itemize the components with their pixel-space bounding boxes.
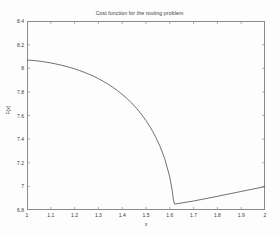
y-axis-tick-labels: 6.877.27.47.67.888.28.4 <box>0 0 24 237</box>
x-tick-label: 1.2 <box>71 212 78 218</box>
x-tick-label: 1 <box>26 212 29 218</box>
series-line-fx <box>27 60 265 204</box>
y-tick-label: 7.2 <box>17 160 24 166</box>
y-tick-label: 7.4 <box>17 136 24 142</box>
figure-canvas: Cost function for the routing problem 6.… <box>0 0 279 237</box>
chart-title: Cost function for the routing problem <box>0 10 279 16</box>
x-tick-label: 1.6 <box>166 212 173 218</box>
y-tick-label: 7 <box>21 183 24 189</box>
tick-marks <box>27 21 265 210</box>
plot-area <box>27 21 265 210</box>
y-tick-label: 8.4 <box>17 18 24 24</box>
x-tick-label: 1.8 <box>214 212 221 218</box>
x-tick-label: 1.9 <box>238 212 245 218</box>
x-tick-label: 2 <box>264 212 267 218</box>
x-tick-label: 1.5 <box>143 212 150 218</box>
x-axis-label: x <box>27 221 265 227</box>
y-tick-label: 7.8 <box>17 89 24 95</box>
x-tick-label: 1.3 <box>95 212 102 218</box>
y-axis-label: F(x) <box>5 96 11 124</box>
y-tick-label: 8 <box>21 65 24 71</box>
x-tick-label: 1.1 <box>47 212 54 218</box>
y-tick-label: 8.2 <box>17 42 24 48</box>
y-tick-label: 6.8 <box>17 207 24 213</box>
y-tick-label: 7.6 <box>17 113 24 119</box>
x-tick-label: 1.7 <box>190 212 197 218</box>
x-tick-label: 1.4 <box>119 212 126 218</box>
